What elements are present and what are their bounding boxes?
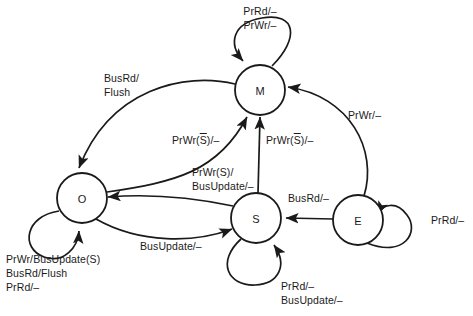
edge-e-to-s bbox=[286, 218, 333, 219]
label-e-to-s-text: BusRd/– bbox=[288, 192, 329, 204]
label-o-to-m: PrWr(S)/– bbox=[172, 133, 219, 147]
label-e-to-m: PrWr/– bbox=[348, 108, 381, 122]
label-s-to-m-overline-s: S bbox=[294, 134, 301, 146]
label-m-to-o: BusRd/ Flush bbox=[104, 71, 139, 99]
label-o-to-m-post: )/– bbox=[207, 134, 220, 146]
state-node-e[interactable]: E bbox=[333, 195, 383, 245]
label-o-self-line1: PrWr/BusUpdate(S) bbox=[6, 252, 100, 266]
label-e-self-text: PrRd/– bbox=[431, 214, 464, 226]
label-s-to-o-line2: BusUpdate/– bbox=[192, 179, 254, 193]
label-s-self-line2: BusUpdate/– bbox=[281, 293, 343, 307]
label-e-to-s: BusRd/– bbox=[288, 191, 329, 205]
edge-o-to-s bbox=[96, 219, 232, 239]
label-s-to-m-pre: PrWr( bbox=[266, 134, 294, 146]
edge-m-to-o bbox=[79, 80, 235, 168]
state-label-o: O bbox=[78, 193, 87, 205]
label-o-self-line2: BusRd/Flush bbox=[6, 266, 100, 280]
state-diagram-canvas: M O S E PrRd/– PrWr/– BusRd/ Flush PrWr(… bbox=[0, 0, 473, 316]
edge-s-self-loop bbox=[227, 239, 280, 285]
state-label-s: S bbox=[252, 213, 259, 225]
label-s-to-m-post: )/– bbox=[301, 134, 314, 146]
label-m-to-o-line1: BusRd/ bbox=[104, 71, 139, 85]
label-o-to-s-text: BusUpdate/– bbox=[140, 240, 202, 252]
edge-s-to-o bbox=[108, 196, 233, 206]
state-node-s[interactable]: S bbox=[231, 193, 281, 243]
state-node-m[interactable]: M bbox=[235, 65, 285, 115]
label-m-self-line2: PrWr/– bbox=[222, 18, 298, 32]
label-m-to-o-line2: Flush bbox=[104, 85, 139, 99]
label-s-self-line1: PrRd/– bbox=[281, 279, 343, 293]
label-e-self-loop: PrRd/– bbox=[431, 213, 464, 227]
label-e-to-m-text: PrWr/– bbox=[348, 109, 381, 121]
state-label-e: E bbox=[354, 215, 361, 227]
label-m-self-loop: PrRd/– PrWr/– bbox=[222, 4, 298, 32]
label-o-to-s: BusUpdate/– bbox=[140, 239, 202, 253]
label-o-to-m-pre: PrWr( bbox=[172, 134, 200, 146]
label-m-self-line1: PrRd/– bbox=[222, 4, 298, 18]
edge-s-to-m bbox=[258, 117, 260, 193]
state-label-m: M bbox=[255, 85, 264, 97]
label-o-self-loop: PrWr/BusUpdate(S) BusRd/Flush PrRd/– bbox=[6, 252, 100, 294]
label-s-to-o-line1: PrWr(S)/ bbox=[192, 165, 254, 179]
label-s-to-o: PrWr(S)/ BusUpdate/– bbox=[192, 165, 254, 193]
label-o-to-m-overline-s: S bbox=[200, 134, 207, 146]
label-o-self-line3: PrRd/– bbox=[6, 280, 100, 294]
label-s-to-m: PrWr(S)/– bbox=[266, 133, 313, 147]
label-s-self-loop: PrRd/– BusUpdate/– bbox=[281, 279, 343, 307]
state-node-o[interactable]: O bbox=[57, 173, 107, 223]
